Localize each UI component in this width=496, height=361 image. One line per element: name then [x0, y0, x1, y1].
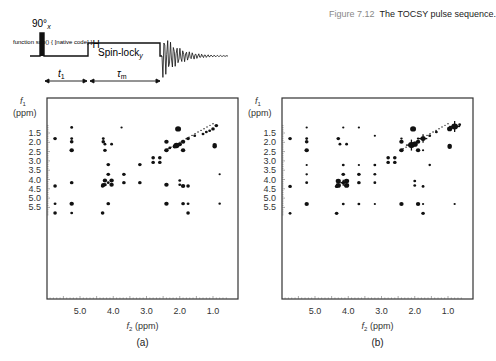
cross-peak	[164, 202, 168, 206]
cross-peak	[106, 163, 110, 166]
cross-peak	[341, 181, 345, 184]
cross-peak	[447, 145, 451, 149]
cross-peak	[435, 131, 438, 134]
cross-peak	[151, 156, 155, 159]
cross-peak	[342, 164, 345, 167]
cross-peak	[208, 129, 211, 132]
panel-label: (b)	[371, 337, 383, 348]
cross-peak	[122, 173, 126, 176]
y-tick-label: 5.5	[263, 202, 276, 212]
cross-peak	[341, 173, 345, 176]
cross-peak	[102, 137, 105, 140]
cross-peak	[345, 143, 348, 146]
plot-frame	[282, 98, 473, 299]
cross-peak	[458, 123, 461, 126]
cross-peak	[186, 211, 190, 214]
cross-peak	[289, 212, 292, 215]
cross-peak	[193, 134, 196, 137]
cross-peak	[451, 123, 458, 129]
cross-peak	[373, 173, 376, 176]
cross-peak	[373, 164, 376, 167]
x-tick-label: 3.0	[140, 306, 153, 316]
cross-peak	[336, 179, 341, 184]
cross-peak	[109, 178, 113, 182]
cross-peak	[335, 185, 339, 188]
cross-peak	[412, 141, 418, 146]
cross-peak	[386, 156, 390, 159]
cross-peak	[386, 161, 390, 164]
cross-peak	[158, 156, 162, 159]
cross-peak	[342, 126, 344, 128]
cross-peak	[164, 140, 168, 144]
cross-peak	[428, 134, 431, 137]
cross-peak	[357, 181, 361, 184]
cross-peak	[173, 144, 177, 148]
y-axis-label: f1	[255, 96, 262, 107]
cross-peak	[103, 178, 107, 182]
cross-peak	[428, 164, 431, 166]
cross-peak	[400, 137, 403, 139]
x-tick-label: 2.0	[408, 306, 421, 316]
cross-peak	[186, 137, 190, 140]
cross-peak	[120, 126, 122, 128]
cross-peak	[106, 202, 110, 205]
cross-peak	[344, 183, 349, 188]
cross-peak	[202, 133, 205, 136]
cross-peak	[335, 212, 339, 215]
x-tick-label: 4.0	[342, 306, 355, 316]
y-axis-label: f1	[20, 96, 27, 107]
cross-peak	[399, 202, 403, 206]
cross-peak	[422, 185, 425, 188]
cross-peak	[107, 181, 110, 184]
cross-peak	[70, 181, 74, 184]
y-tick-label: 5.5	[28, 202, 41, 212]
cross-peak	[447, 127, 452, 132]
cross-peak	[178, 183, 181, 186]
cross-peak	[373, 181, 376, 184]
cross-peak	[109, 183, 113, 187]
cross-peak	[110, 143, 113, 146]
cross-peak	[164, 148, 168, 152]
cross-peak	[218, 203, 221, 205]
cross-peak	[205, 131, 208, 134]
figure-caption-text: The TOCSY pulse sequence.	[380, 9, 496, 19]
cross-peak	[181, 148, 185, 152]
cross-peak	[410, 126, 416, 131]
x-tick-label: 2.0	[173, 306, 186, 316]
cross-peak	[358, 126, 360, 128]
cross-peak	[70, 137, 73, 140]
cross-peak	[138, 163, 142, 166]
cross-peak	[187, 202, 190, 205]
cross-peak	[54, 202, 57, 205]
cross-peak	[138, 181, 142, 184]
cross-peak	[212, 144, 216, 148]
cross-peak	[306, 126, 308, 128]
cross-peak	[178, 179, 181, 182]
y-axis-unit: (ppm)	[13, 108, 37, 118]
cross-peak	[175, 126, 181, 131]
cross-peak	[168, 147, 171, 150]
cross-peak	[70, 212, 73, 215]
x-tick-label: 4.0	[107, 306, 120, 316]
nucleus-label: function sup() { [native code] }H	[13, 39, 100, 50]
cross-peak	[288, 185, 292, 188]
cross-peak	[186, 184, 190, 187]
y-axis-unit: (ppm)	[248, 108, 272, 118]
cross-peak	[421, 212, 425, 215]
fid-signal	[162, 41, 228, 78]
cross-peak	[305, 140, 309, 143]
cross-peak	[101, 184, 105, 187]
cross-peak	[357, 173, 361, 176]
cross-peak	[413, 184, 416, 187]
cross-peak	[101, 211, 105, 214]
x-axis-label: f2 (ppm)	[362, 321, 394, 332]
cross-peak	[53, 211, 57, 214]
cross-peak	[219, 173, 221, 175]
figure-caption: Figure 7.12The TOCSY pulse sequence.	[329, 9, 496, 19]
pulse-label: 90°x	[32, 18, 51, 30]
cross-peak	[181, 202, 185, 205]
spectrum-panel-a: 5.04.03.02.01.01.52.02.53.03.54.04.55.05…	[0, 90, 245, 361]
cross-peak	[151, 161, 155, 164]
cross-peak	[304, 202, 308, 206]
cross-peak	[393, 156, 397, 159]
